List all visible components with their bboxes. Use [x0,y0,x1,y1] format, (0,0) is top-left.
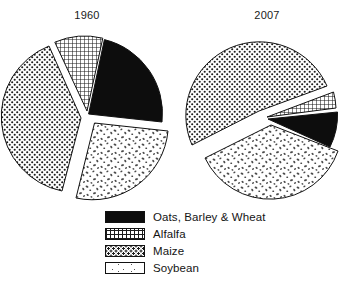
swatch-soybean [105,262,145,274]
legend-label-alfalfa: Alfalfa [153,228,186,240]
chart-legend: Oats, Barley & Wheat Alfalfa Maize Soybe… [105,208,335,276]
pie-1960 [1,36,168,200]
swatch-maize [105,245,145,257]
pie-charts-canvas [0,0,344,205]
legend-label-oats-barley-wheat: Oats, Barley & Wheat [153,211,266,223]
pie-1960-slice-soybean[interactable] [76,123,168,200]
swatch-oats-barley-wheat [105,211,145,223]
legend-item-alfalfa[interactable]: Alfalfa [105,225,335,242]
legend-item-maize[interactable]: Maize [105,242,335,259]
legend-label-soybean: Soybean [153,262,199,274]
pie-chart-figure: 1960 2007 [0,0,344,287]
legend-item-oats-barley-wheat[interactable]: Oats, Barley & Wheat [105,208,335,225]
legend-item-soybean[interactable]: Soybean [105,259,335,276]
legend-label-maize: Maize [153,245,184,257]
swatch-alfalfa [105,228,145,240]
pie-2007 [186,42,338,199]
